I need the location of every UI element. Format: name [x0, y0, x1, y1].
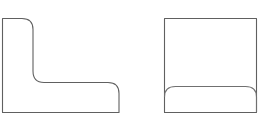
shapes-figure: [0, 0, 265, 120]
l-shape-outline: [3, 19, 120, 113]
drawing-canvas: [0, 0, 265, 120]
rectangle-outline: [165, 19, 257, 113]
